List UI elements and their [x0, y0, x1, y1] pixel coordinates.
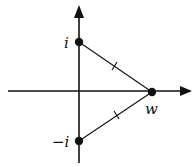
point-w: [148, 88, 156, 96]
imaginary-axis-arrow-icon: [74, 5, 84, 18]
tick-mark-upper: [112, 62, 117, 70]
point-i: [75, 38, 83, 46]
label-w: w: [145, 100, 158, 118]
segment-neg-i-w: [79, 92, 152, 141]
segment-i-w: [79, 42, 152, 92]
complex-plane-diagram: i w −i: [0, 0, 196, 167]
label-i: i: [64, 34, 69, 52]
label-neg-i: −i: [52, 133, 70, 151]
point-neg-i: [75, 137, 83, 145]
real-axis-arrow-icon: [180, 86, 192, 96]
